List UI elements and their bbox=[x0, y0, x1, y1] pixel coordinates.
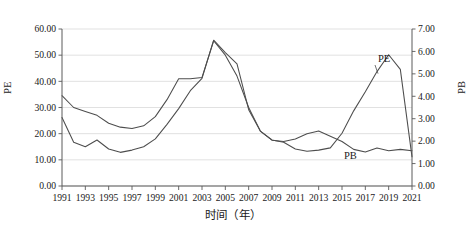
y-axis-left-tick-label: 60.00 bbox=[34, 23, 56, 34]
y-axis-left-tick-label: 20.00 bbox=[34, 128, 56, 139]
x-axis-tick-label: 2005 bbox=[216, 192, 235, 203]
y-axis-right-tick-label: 3.00 bbox=[418, 113, 435, 124]
tick-marks bbox=[59, 29, 416, 190]
x-axis-tick-label: 2019 bbox=[379, 192, 398, 203]
y-axis-left-tick-label: 30.00 bbox=[34, 102, 56, 113]
series-line-pb bbox=[62, 40, 412, 157]
y-axis-right-tick-label: 0.00 bbox=[418, 180, 435, 191]
y-axis-right-tick-label: 2.00 bbox=[418, 135, 435, 146]
x-axis-tick-label: 1991 bbox=[52, 192, 71, 203]
x-axis-tick-label: 1999 bbox=[146, 192, 165, 203]
y-axis-right-tick-label: 1.00 bbox=[418, 158, 435, 169]
x-axis-tick-label: 2007 bbox=[239, 192, 258, 203]
x-axis-tick-label: 2003 bbox=[192, 192, 211, 203]
series-annotations: PEPB bbox=[344, 53, 390, 161]
x-axis-tick-label: 1993 bbox=[76, 192, 95, 203]
y-axis-left-tick-label: 0.00 bbox=[39, 180, 56, 191]
y-axis-right-tick-label: 5.00 bbox=[418, 68, 435, 79]
y-axis-right-tick-label: 4.00 bbox=[418, 91, 435, 102]
x-axis-tick-label: 1997 bbox=[122, 192, 141, 203]
data-series-group bbox=[62, 40, 412, 157]
x-axis-tick-label: 2009 bbox=[262, 192, 281, 203]
y-axis-right-tick-label: 6.00 bbox=[418, 46, 435, 57]
y-axis-right-tick-labels: 0.001.002.003.004.005.006.007.00 bbox=[418, 23, 435, 191]
chart-container: PE PB 时间（年） 0.0010.0020.0030.0040.0050.0… bbox=[0, 0, 466, 234]
x-axis-tick-label: 2011 bbox=[286, 192, 305, 203]
y-axis-right-tick-label: 7.00 bbox=[418, 23, 435, 34]
pb-series-label: PB bbox=[344, 150, 357, 161]
x-axis-tick-label: 2013 bbox=[309, 192, 328, 203]
series-line-pe bbox=[62, 41, 412, 152]
y-axis-left-tick-label: 50.00 bbox=[34, 49, 56, 60]
x-axis-tick-label: 2021 bbox=[402, 192, 421, 203]
x-axis-tick-label: 2001 bbox=[169, 192, 188, 203]
chart-plot-area: 0.0010.0020.0030.0040.0050.0060.00 0.001… bbox=[0, 0, 466, 234]
pe-series-label: PE bbox=[378, 53, 390, 64]
x-axis-tick-label: 2017 bbox=[356, 192, 375, 203]
x-axis-tick-labels: 1991199319951997199920012003200520072009… bbox=[52, 192, 421, 203]
gridlines bbox=[62, 29, 412, 186]
x-axis-tick-label: 2015 bbox=[332, 192, 351, 203]
y-axis-left-tick-label: 10.00 bbox=[34, 154, 56, 165]
x-axis-tick-label: 1995 bbox=[99, 192, 118, 203]
y-axis-left-tick-labels: 0.0010.0020.0030.0040.0050.0060.00 bbox=[34, 23, 56, 191]
y-axis-left-tick-label: 40.00 bbox=[34, 76, 56, 87]
